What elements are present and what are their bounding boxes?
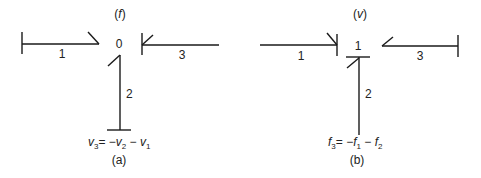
half-arrow	[347, 58, 359, 68]
diagram-b-header: (v)	[353, 7, 367, 21]
bond-1-label: 1	[298, 49, 305, 63]
bond-graph-figure: (f) 0 1 3 2 v3= −v2 − v1 (a) (v) 1	[0, 0, 481, 178]
diagram-b: (v) 1 1 3 2 f3= −f1 − f2 (b)	[260, 7, 458, 167]
bond-3-label: 3	[417, 49, 424, 63]
caption-a: (a)	[112, 153, 127, 167]
bond-2-label: 2	[126, 87, 133, 101]
caption-b: (b)	[350, 153, 365, 167]
half-arrow	[88, 32, 99, 44]
half-arrow	[108, 55, 120, 66]
diagram-a: (f) 0 1 3 2 v3= −v2 − v1 (a)	[22, 7, 219, 167]
junction-one: 1	[355, 39, 362, 53]
equation-b: f3= −f1 − f2	[328, 135, 383, 151]
bond-2-label: 2	[365, 87, 372, 101]
half-arrow	[382, 37, 393, 46]
half-arrow	[142, 35, 153, 45]
equation-a: v3= −v2 − v1	[88, 135, 151, 151]
half-arrow	[327, 33, 337, 45]
diagram-a-header: (f)	[114, 7, 125, 21]
junction-zero: 0	[116, 37, 123, 51]
bond-3-label: 3	[179, 48, 186, 62]
bond-1-label: 1	[59, 47, 66, 61]
